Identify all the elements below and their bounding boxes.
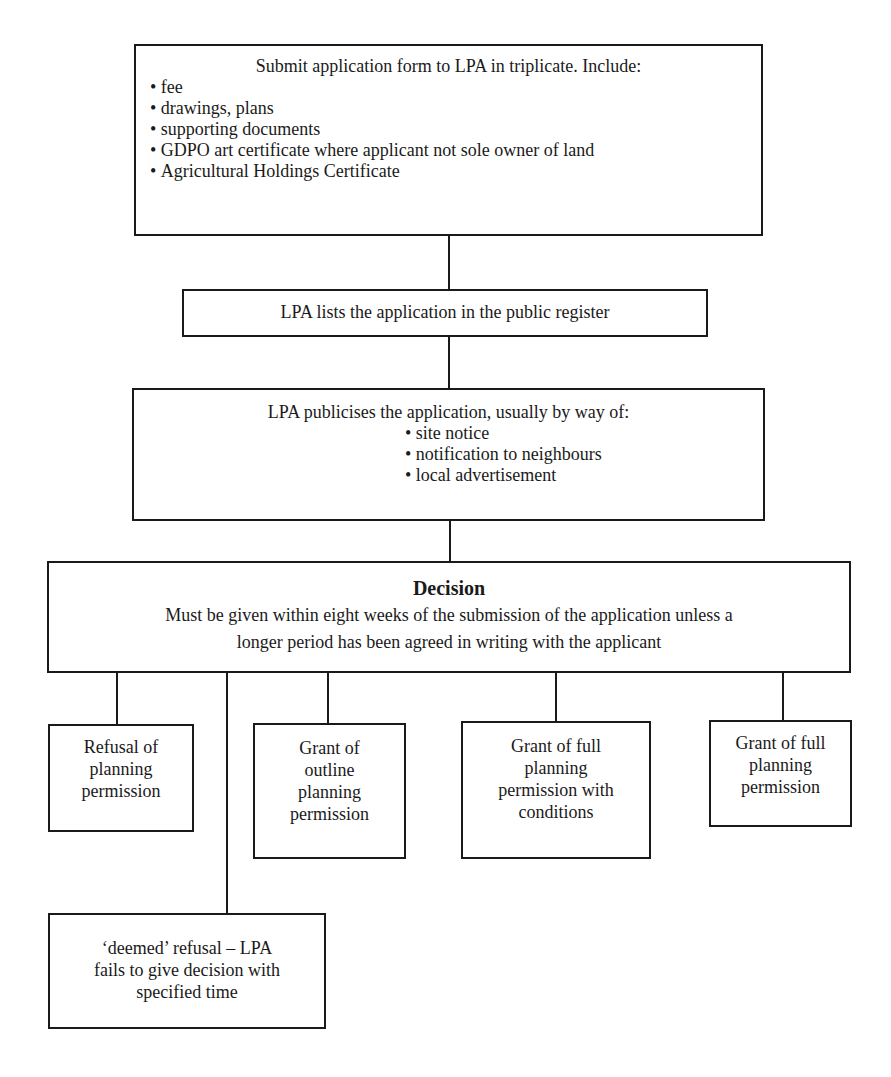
connector-3-decision: [449, 521, 451, 563]
outcome-text: Grant of: [290, 737, 369, 759]
submit-requirements-list: fee drawings, plans supporting documents…: [150, 77, 761, 182]
outcome-text: ‘deemed’ refusal – LPA: [94, 937, 280, 959]
decision-text-line2: longer period has been agreed in writing…: [49, 632, 849, 653]
connector-decision-refusal: [116, 673, 118, 725]
connector-2-3: [448, 337, 450, 390]
outcome-text: Refusal of: [82, 736, 161, 758]
list-item: notification to neighbours: [405, 444, 763, 465]
outcome-outline-permission: Grant of outline planning permission: [253, 723, 406, 859]
list-item: supporting documents: [150, 119, 761, 140]
list-item: fee: [150, 77, 761, 98]
outcome-text: permission: [82, 780, 161, 802]
outcome-text: planning: [498, 757, 614, 779]
outcome-text: planning: [82, 758, 161, 780]
connector-decision-conditions: [555, 673, 557, 722]
outcome-text: fails to give decision with: [94, 959, 280, 981]
step-submit-title: Submit application form to LPA in tripli…: [150, 56, 761, 77]
list-item: Agricultural Holdings Certificate: [150, 161, 761, 182]
step-public-register: LPA lists the application in the public …: [182, 289, 708, 337]
list-item: drawings, plans: [150, 98, 761, 119]
outcome-text: Grant of full: [736, 732, 826, 754]
step-publicise-title: LPA publicises the application, usually …: [134, 402, 763, 423]
connector-decision-deemed: [226, 673, 228, 915]
outcome-text: conditions: [498, 801, 614, 823]
outcome-refusal: Refusal of planning permission: [48, 724, 194, 832]
decision-heading: Decision: [49, 577, 849, 600]
outcome-text: specified time: [94, 981, 280, 1003]
outcome-deemed-refusal: ‘deemed’ refusal – LPA fails to give dec…: [48, 913, 326, 1029]
outcome-text: planning: [736, 754, 826, 776]
list-item: site notice: [405, 423, 763, 444]
outcome-text: permission: [290, 803, 369, 825]
outcome-full-permission: Grant of full planning permission: [709, 720, 852, 827]
outcome-text: permission with: [498, 779, 614, 801]
outcome-text: Grant of full: [498, 735, 614, 757]
outcome-full-permission-conditions: Grant of full planning permission with c…: [461, 721, 651, 859]
list-item: GDPO art certificate where applicant not…: [150, 140, 761, 161]
step-publicise: LPA publicises the application, usually …: [132, 388, 765, 521]
step-register-title: LPA lists the application in the public …: [184, 302, 706, 323]
list-item: local advertisement: [405, 465, 763, 486]
outcome-text: outline: [290, 759, 369, 781]
connector-1-2: [448, 236, 450, 291]
decision-box: Decision Must be given within eight week…: [47, 561, 851, 673]
publicity-methods-list: site notice notification to neighbours l…: [405, 423, 763, 486]
step-submit-application: Submit application form to LPA in tripli…: [134, 44, 763, 236]
connector-decision-full: [782, 673, 784, 721]
outcome-text: permission: [736, 776, 826, 798]
connector-decision-outline: [327, 673, 329, 724]
outcome-text: planning: [290, 781, 369, 803]
decision-text-line1: Must be given within eight weeks of the …: [49, 605, 849, 626]
